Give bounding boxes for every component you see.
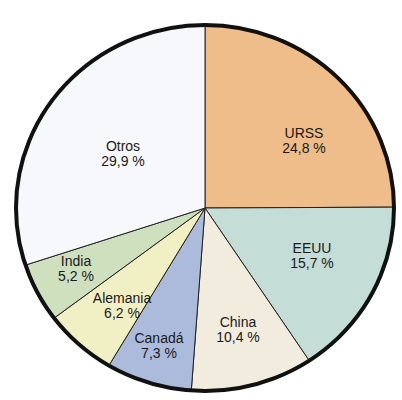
pie-chart: URSS24,8 %EEUU15,7 %China10,4 %Canadá7,3…	[0, 0, 402, 400]
slice-label-otros: Otros29,9 %	[101, 138, 145, 169]
slice-label-urss: URSS24,8 %	[282, 125, 326, 156]
slice-label-india: India5,2 %	[58, 253, 94, 284]
slice-label-canadá: Canadá7,3 %	[134, 330, 183, 361]
slice-label-eeuu: EEUU15,7 %	[290, 240, 334, 271]
pie-slice-urss	[205, 25, 394, 208]
slice-label-china: China10,4 %	[216, 314, 260, 345]
